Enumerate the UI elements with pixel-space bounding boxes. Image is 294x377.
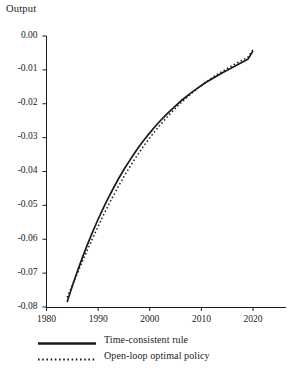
y-axis-ticks	[43, 36, 47, 307]
y-tick-label: -0.04	[0, 165, 38, 175]
y-tick-label: -0.01	[0, 63, 38, 73]
x-tick-label: 2000	[130, 314, 170, 324]
x-tick-label: 2020	[233, 314, 273, 324]
data-series	[67, 50, 253, 302]
legend-label-time-consistent-rule: Time-consistent rule	[104, 334, 188, 345]
series-line-open-loop-optimal-policy	[67, 50, 253, 298]
y-tick-label: -0.08	[0, 301, 38, 311]
x-tick-label: 2010	[181, 314, 221, 324]
x-tick-label: 1990	[78, 314, 118, 324]
y-tick-label: -0.03	[0, 131, 38, 141]
y-tick-label: -0.05	[0, 199, 38, 209]
chart-legend: Time-consistent rule Open-loop optimal p…	[0, 333, 294, 377]
output-chart-figure: Output 0.00-0.01-0.02-0.03-0.04-0.05-0.0…	[0, 0, 294, 377]
legend-swatch-solid-icon	[38, 342, 96, 345]
y-tick-label: -0.06	[0, 233, 38, 243]
y-tick-label: -0.02	[0, 97, 38, 107]
axes	[46, 36, 286, 308]
series-line-time-consistent-rule	[67, 51, 253, 302]
y-tick-label: 0.00	[0, 30, 38, 40]
legend-swatch-dotted-icon	[38, 358, 96, 361]
x-tick-label: 1980	[27, 314, 67, 324]
y-tick-label: -0.07	[0, 267, 38, 277]
legend-label-open-loop-optimal-policy: Open-loop optimal policy	[104, 350, 210, 361]
